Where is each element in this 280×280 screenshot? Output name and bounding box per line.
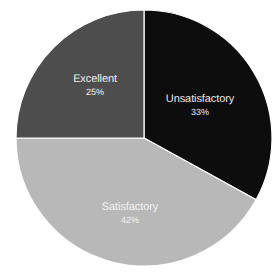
pie-slice-excellent[interactable]: [16, 10, 144, 138]
pie-chart-svg: [0, 0, 280, 280]
pie-slices: [16, 10, 272, 266]
pie-chart: Unsatisfactory 33% Satisfactory 42% Exce…: [0, 0, 280, 280]
